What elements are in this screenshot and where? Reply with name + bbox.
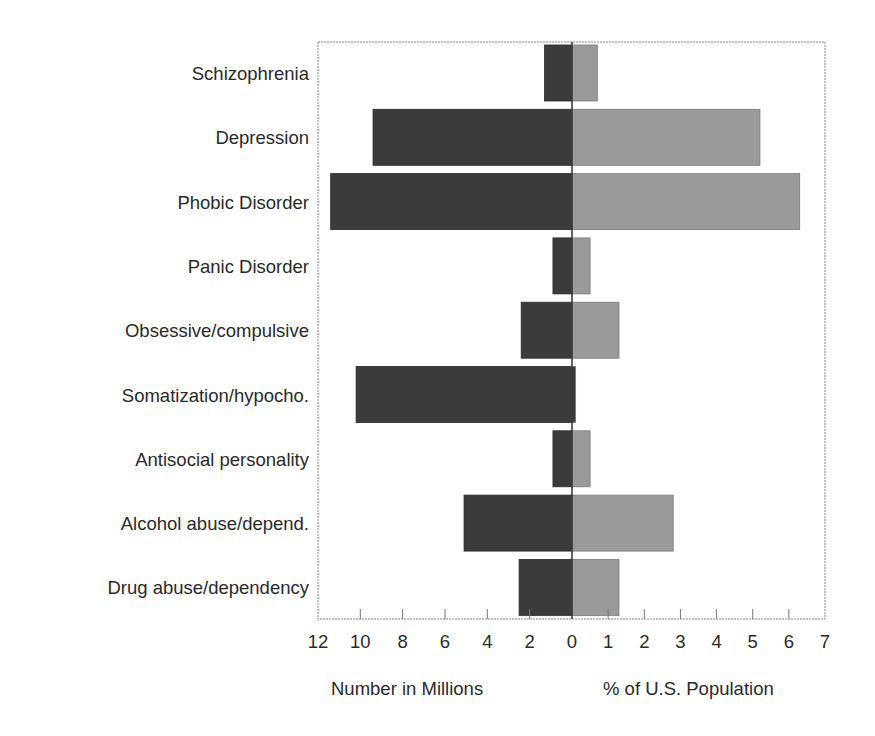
tick-labels-layer: 1210864201234567 xyxy=(308,631,830,652)
bar-percent-8 xyxy=(572,559,619,615)
category-label-0: Schizophrenia xyxy=(192,63,310,84)
right-tick-label-7: 7 xyxy=(820,631,830,652)
category-label-3: Panic Disorder xyxy=(188,256,309,277)
right-tick-label-6: 6 xyxy=(784,631,794,652)
left-tick-label-8: 8 xyxy=(398,631,408,652)
bar-percent-3 xyxy=(572,238,590,294)
category-label-6: Antisocial personality xyxy=(135,449,310,470)
left-tick-label-0: 0 xyxy=(567,631,577,652)
bar-percent-1 xyxy=(572,109,760,165)
left-tick-label-12: 12 xyxy=(308,631,329,652)
bar-millions-2 xyxy=(331,174,572,230)
bar-percent-7 xyxy=(572,495,673,551)
right-tick-label-4: 4 xyxy=(711,631,721,652)
bar-millions-6 xyxy=(553,431,572,487)
bar-millions-7 xyxy=(464,495,572,551)
category-labels-layer: SchizophreniaDepressionPhobic DisorderPa… xyxy=(107,63,309,598)
bar-percent-6 xyxy=(572,431,590,487)
left-axis-title: Number in Millions xyxy=(331,678,483,699)
bar-millions-1 xyxy=(373,109,572,165)
bar-millions-8 xyxy=(519,559,572,615)
category-label-8: Drug abuse/dependency xyxy=(107,577,309,598)
left-tick-label-10: 10 xyxy=(350,631,371,652)
category-label-2: Phobic Disorder xyxy=(177,192,309,213)
bar-millions-3 xyxy=(553,238,572,294)
bar-percent-2 xyxy=(572,174,800,230)
right-tick-label-2: 2 xyxy=(639,631,649,652)
category-label-4: Obsessive/compulsive xyxy=(125,320,309,341)
category-label-1: Depression xyxy=(215,127,309,148)
right-tick-label-3: 3 xyxy=(675,631,685,652)
bar-percent-0 xyxy=(572,45,597,101)
left-tick-label-6: 6 xyxy=(440,631,450,652)
left-tick-label-2: 2 xyxy=(525,631,535,652)
left-tick-label-4: 4 xyxy=(482,631,492,652)
bars-layer xyxy=(331,45,800,615)
mirror-bar-chart: SchizophreniaDepressionPhobic DisorderPa… xyxy=(0,0,875,736)
category-label-5: Somatization/hypocho. xyxy=(122,385,309,406)
bar-percent-4 xyxy=(572,302,619,358)
right-tick-label-1: 1 xyxy=(603,631,613,652)
right-tick-label-5: 5 xyxy=(748,631,758,652)
bar-millions-0 xyxy=(544,45,572,101)
bar-millions-4 xyxy=(521,302,572,358)
category-label-7: Alcohol abuse/depend. xyxy=(121,513,309,534)
bar-millions-5 xyxy=(356,367,572,423)
right-axis-title: % of U.S. Population xyxy=(603,678,774,699)
